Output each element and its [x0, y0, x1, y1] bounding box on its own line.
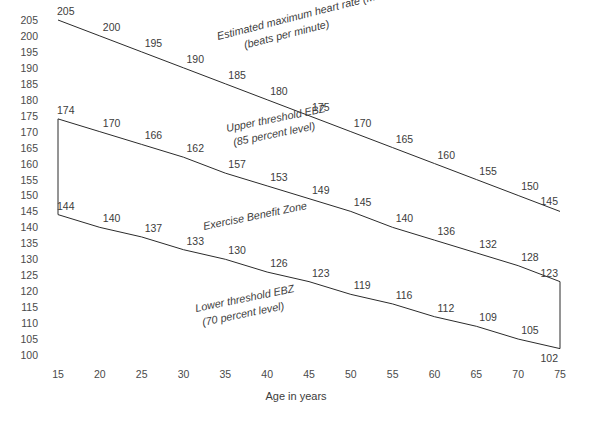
y-tick-160: 160: [20, 158, 38, 170]
x-tick-20: 20: [94, 368, 106, 380]
x-tick-75: 75: [554, 368, 566, 380]
y-tick-190: 190: [20, 62, 38, 74]
y-tick-175: 175: [20, 110, 38, 122]
x-axis-tick-labels: 15202530354045505560657075: [52, 368, 566, 380]
y-tick-130: 130: [20, 253, 38, 265]
data-label-s2-25: 137: [145, 222, 163, 234]
data-label-s2-15: 144: [57, 200, 75, 212]
x-tick-25: 25: [136, 368, 148, 380]
data-label-s1-15: 174: [57, 104, 75, 116]
data-label-s2-75: 102: [540, 352, 558, 364]
y-tick-100: 100: [20, 349, 38, 361]
data-label-s0-20: 200: [103, 21, 121, 33]
chart-canvas: 2052001951901851801751701651601551501451…: [0, 0, 591, 431]
data-label-s0-70: 150: [521, 180, 539, 192]
x-tick-55: 55: [387, 368, 399, 380]
y-tick-185: 185: [20, 78, 38, 90]
data-label-s1-55: 140: [396, 212, 414, 224]
data-label-s2-70: 105: [521, 324, 539, 336]
data-label-s1-40: 153: [270, 171, 288, 183]
data-label-s2-50: 119: [354, 279, 371, 291]
y-tick-150: 150: [20, 189, 38, 201]
data-label-s1-50: 145: [354, 196, 372, 208]
x-tick-30: 30: [178, 368, 190, 380]
data-label-s0-55: 165: [396, 133, 414, 145]
data-label-s0-75: 145: [540, 195, 558, 207]
data-label-s1-20: 170: [103, 117, 121, 129]
data-label-s1-30: 162: [187, 142, 205, 154]
exercise-heart-rate-chart: 2052001951901851801751701651601551501451…: [0, 0, 591, 431]
data-label-s0-15: 205: [57, 5, 75, 17]
y-tick-135: 135: [20, 237, 38, 249]
annotation-mhr: Estimated maximum heart rate (MHR) (beat…: [216, 0, 399, 56]
x-tick-65: 65: [470, 368, 482, 380]
data-label-s2-40: 126: [270, 257, 288, 269]
data-label-s1-65: 132: [479, 238, 497, 250]
x-tick-45: 45: [303, 368, 315, 380]
data-label-s0-60: 160: [438, 149, 456, 161]
y-tick-145: 145: [20, 205, 38, 217]
y-tick-125: 125: [20, 269, 38, 281]
x-tick-60: 60: [429, 368, 441, 380]
y-tick-120: 120: [20, 285, 38, 297]
x-tick-35: 35: [219, 368, 231, 380]
annotation-upper-threshold: Upper threshold EBZ (85 percent level): [225, 102, 330, 149]
y-tick-155: 155: [20, 174, 38, 186]
data-label-s0-50: 170: [354, 117, 372, 129]
data-label-s2-55: 116: [396, 289, 413, 301]
annotation-lower-threshold: Lower threshold EBZ (70 percent level): [194, 282, 299, 329]
y-tick-170: 170: [20, 126, 38, 138]
data-label-s2-35: 130: [228, 244, 246, 256]
y-tick-200: 200: [20, 30, 38, 42]
data-label-s2-30: 133: [187, 235, 205, 247]
y-tick-180: 180: [20, 94, 38, 106]
data-label-s1-25: 166: [145, 129, 163, 141]
x-tick-15: 15: [52, 368, 64, 380]
data-label-s2-20: 140: [103, 212, 121, 224]
x-tick-70: 70: [512, 368, 524, 380]
data-label-s0-30: 190: [187, 53, 205, 65]
annotation-zone-line1: Exercise Benefit Zone: [202, 199, 308, 232]
series-line-1: [58, 119, 560, 282]
data-label-s0-65: 155: [479, 165, 497, 177]
x-axis-title: Age in years: [265, 390, 327, 402]
data-label-s0-40: 180: [270, 85, 288, 97]
y-tick-140: 140: [20, 221, 38, 233]
data-label-s1-60: 136: [438, 225, 456, 237]
x-tick-40: 40: [261, 368, 273, 380]
series-line-2: [58, 215, 560, 349]
y-axis-tick-labels: 2052001951901851801751701651601551501451…: [20, 14, 38, 361]
data-label-s2-45: 123: [312, 267, 330, 279]
data-label-s1-45: 149: [312, 184, 330, 196]
data-label-s1-35: 157: [228, 158, 246, 170]
data-label-s1-70: 128: [521, 251, 539, 263]
y-tick-165: 165: [20, 142, 38, 154]
data-label-s0-35: 185: [228, 69, 246, 81]
data-point-labels-group: 2052001951901851801751701651601551501451…: [57, 5, 558, 364]
data-label-s2-60: 112: [438, 302, 455, 314]
series-lines-group: [58, 20, 560, 349]
data-label-s2-65: 109: [479, 311, 497, 323]
data-label-s1-75: 123: [540, 267, 558, 279]
y-tick-195: 195: [20, 46, 38, 58]
y-tick-105: 105: [20, 333, 38, 345]
y-tick-110: 110: [21, 317, 38, 329]
data-label-s0-25: 195: [145, 37, 163, 49]
y-tick-115: 115: [21, 301, 38, 313]
annotation-exercise-benefit-zone: Exercise Benefit Zone: [202, 199, 308, 232]
annotation-mhr-line1: Estimated maximum heart rate (MHR): [216, 0, 395, 42]
y-tick-205: 205: [20, 14, 38, 26]
x-tick-50: 50: [345, 368, 357, 380]
